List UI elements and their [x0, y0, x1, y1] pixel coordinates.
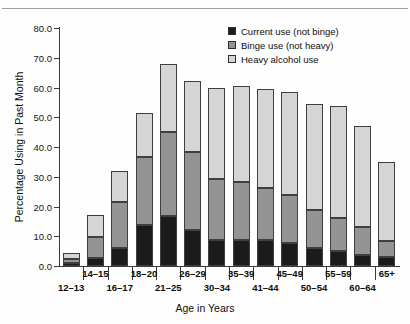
- x-axis-tick-label: 55–59: [325, 268, 351, 279]
- legend-item: Heavy alcohol use: [228, 52, 339, 66]
- bar-segment-heavy-alcohol-use: [354, 126, 371, 227]
- bar-21-25: [160, 64, 177, 266]
- bar-segment-binge-use-not-heavy: [87, 237, 104, 258]
- bar-16-17: [111, 171, 128, 266]
- chart-legend: Current use (not binge)Binge use (not he…: [228, 24, 339, 66]
- x-axis-tick-label: 45–49: [276, 268, 302, 279]
- bar-segment-current-use-not-binge: [111, 248, 128, 266]
- bar-segment-heavy-alcohol-use: [378, 162, 395, 241]
- bar-50-54: [306, 104, 323, 266]
- x-axis-title: Age in Years: [0, 302, 410, 314]
- bar-segment-current-use-not-binge: [257, 240, 274, 266]
- legend-swatch-icon: [228, 55, 236, 63]
- x-axis-tick-label: 65+: [379, 268, 395, 279]
- legend-label: Binge use (not heavy): [241, 40, 333, 51]
- bar-segment-current-use-not-binge: [330, 251, 347, 266]
- bar-segment-heavy-alcohol-use: [330, 106, 347, 218]
- bar-segment-binge-use-not-heavy: [184, 152, 201, 231]
- y-axis-tick-label: 70.0: [0, 52, 52, 63]
- legend-label: Current use (not binge): [241, 26, 339, 37]
- bar-14-15: [87, 215, 104, 266]
- bar-segment-current-use-not-binge: [136, 225, 153, 266]
- bar-segment-binge-use-not-heavy: [208, 179, 225, 240]
- bar-segment-heavy-alcohol-use: [87, 215, 104, 238]
- x-axis-tick-label: 16–17: [106, 282, 132, 293]
- y-axis-tick-label: 20.0: [0, 201, 52, 212]
- y-axis-tick-label: 30.0: [0, 171, 52, 182]
- legend-label: Heavy alcohol use: [241, 54, 319, 65]
- bar-segment-current-use-not-binge: [184, 230, 201, 266]
- bar-segment-heavy-alcohol-use: [184, 81, 201, 152]
- bar-segment-current-use-not-binge: [354, 255, 371, 266]
- bar-segment-binge-use-not-heavy: [63, 259, 80, 263]
- bar-41-44: [257, 89, 274, 266]
- x-axis-tick-label: 60–64: [349, 282, 375, 293]
- bar-segment-binge-use-not-heavy: [257, 188, 274, 239]
- x-axis-tick-label: 12–13: [58, 282, 84, 293]
- x-axis-tick-label: 21–25: [155, 282, 181, 293]
- bar-segment-binge-use-not-heavy: [354, 227, 371, 255]
- y-axis-tick-label: 50.0: [0, 112, 52, 123]
- bar-segment-heavy-alcohol-use: [306, 104, 323, 210]
- bar-35-39: [233, 86, 250, 266]
- x-axis-tick-label: 50–54: [301, 282, 327, 293]
- x-axis-tick-label: 35–39: [228, 268, 254, 279]
- bar-30-34: [208, 88, 225, 266]
- bar-segment-binge-use-not-heavy: [233, 182, 250, 240]
- bar-segment-binge-use-not-heavy: [111, 202, 128, 248]
- y-axis-tick-label: 80.0: [0, 23, 52, 34]
- bar-45-49: [281, 92, 298, 266]
- bar-segment-binge-use-not-heavy: [378, 241, 395, 257]
- y-axis-tick-label: 0.0: [0, 261, 52, 272]
- x-axis-tick: [375, 266, 376, 280]
- legend-item: Current use (not binge): [228, 24, 339, 38]
- bar-segment-current-use-not-binge: [208, 240, 225, 266]
- bar-segment-heavy-alcohol-use: [136, 113, 153, 157]
- x-axis-tick-label: 14–15: [82, 268, 108, 279]
- y-axis-tick-label: 60.0: [0, 82, 52, 93]
- bar-segment-current-use-not-binge: [233, 240, 250, 266]
- legend-swatch-icon: [228, 41, 236, 49]
- bar-55-59: [330, 106, 347, 266]
- y-axis-tick: [54, 266, 59, 267]
- x-axis-tick-label: 30–34: [204, 282, 230, 293]
- bar-segment-heavy-alcohol-use: [208, 88, 225, 178]
- y-axis-tick-label: 10.0: [0, 231, 52, 242]
- y-axis-tick-label: 40.0: [0, 142, 52, 153]
- bar-segment-heavy-alcohol-use: [281, 92, 298, 195]
- legend-item: Binge use (not heavy): [228, 38, 339, 52]
- bar-65+: [378, 162, 395, 266]
- bar-segment-current-use-not-binge: [63, 263, 80, 266]
- bar-segment-current-use-not-binge: [87, 258, 104, 266]
- bar-segment-binge-use-not-heavy: [281, 195, 298, 243]
- bar-26-29: [184, 81, 201, 266]
- bar-12-13: [63, 253, 80, 266]
- bar-segment-heavy-alcohol-use: [111, 171, 128, 202]
- bar-segment-heavy-alcohol-use: [160, 64, 177, 132]
- top-divider: [2, 8, 408, 9]
- x-axis-tick-label: 26–29: [179, 268, 205, 279]
- x-axis-tick-label: 41–44: [252, 282, 278, 293]
- top-caption: [0, 0, 410, 7]
- bar-segment-current-use-not-binge: [306, 248, 323, 266]
- x-axis-tick-label: 18–20: [131, 268, 157, 279]
- bar-segment-current-use-not-binge: [160, 216, 177, 266]
- bar-segment-heavy-alcohol-use: [233, 86, 250, 181]
- bar-segment-current-use-not-binge: [378, 257, 395, 266]
- bar-segment-heavy-alcohol-use: [257, 89, 274, 188]
- bar-segment-binge-use-not-heavy: [306, 210, 323, 247]
- chart-page: Percentage Using in Past Month 0.010.020…: [0, 0, 410, 324]
- bar-segment-binge-use-not-heavy: [330, 218, 347, 252]
- bar-segment-heavy-alcohol-use: [63, 253, 80, 260]
- bar-60-64: [354, 126, 371, 266]
- bar-segment-binge-use-not-heavy: [136, 157, 153, 225]
- bar-segment-current-use-not-binge: [281, 243, 298, 266]
- legend-swatch-icon: [228, 27, 236, 35]
- bar-18-20: [136, 113, 153, 266]
- bar-segment-binge-use-not-heavy: [160, 132, 177, 216]
